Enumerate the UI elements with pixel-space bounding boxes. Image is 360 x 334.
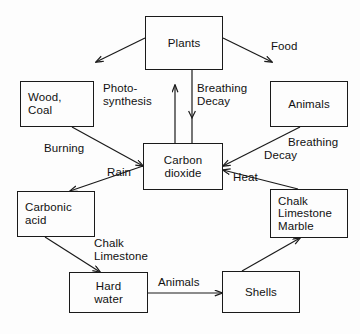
edge-shells-to-chalk: [242, 238, 300, 271]
edge-label-decay-right: Decay: [264, 149, 297, 162]
node-wood-coal-label: Wood, Coal: [28, 91, 62, 116]
node-shells[interactable]: Shells: [222, 271, 300, 313]
node-hard-water-label: Hard water: [94, 280, 123, 305]
edge-label-food: Food: [271, 40, 298, 53]
edge-label-photosynthesis: Photo- synthesis: [103, 82, 152, 107]
node-animals[interactable]: Animals: [270, 81, 348, 127]
edge-plants-to-wood: [96, 38, 145, 62]
node-wood-coal[interactable]: Wood, Coal: [20, 81, 94, 127]
node-carbonic-acid[interactable]: Carbonic acid: [17, 191, 95, 237]
edge-label-breathing-right: Breathing: [288, 136, 338, 149]
edge-label-burning: Burning: [44, 142, 84, 155]
edge-plants-to-animals: [223, 38, 272, 62]
node-hard-water[interactable]: Hard water: [69, 272, 148, 313]
node-carbonic-acid-label: Carbonic acid: [25, 201, 72, 226]
edge-label-breathing-decay-top: Breathing Decay: [197, 82, 247, 107]
edge-label-chalk-limestone: Chalk Limestone: [94, 237, 148, 262]
node-chalk-limestone-marble[interactable]: Chalk Limestone Marble: [270, 189, 348, 238]
edge-carbonic-to-hard: [45, 237, 100, 272]
carbon-cycle-diagram: Plants Wood, Coal Animals Carbon dioxide…: [0, 0, 360, 334]
edge-label-animals-bottom: Animals: [158, 276, 200, 289]
node-chalk-limestone-marble-label: Chalk Limestone Marble: [278, 195, 332, 233]
edge-label-rain: Rain: [107, 166, 131, 179]
node-animals-label: Animals: [288, 98, 330, 111]
node-shells-label: Shells: [245, 286, 277, 299]
node-plants[interactable]: Plants: [145, 16, 223, 70]
node-carbon-dioxide[interactable]: Carbon dioxide: [143, 143, 223, 190]
edge-label-heat: Heat: [233, 171, 258, 184]
node-plants-label: Plants: [168, 37, 201, 50]
node-carbon-dioxide-label: Carbon dioxide: [164, 154, 202, 179]
